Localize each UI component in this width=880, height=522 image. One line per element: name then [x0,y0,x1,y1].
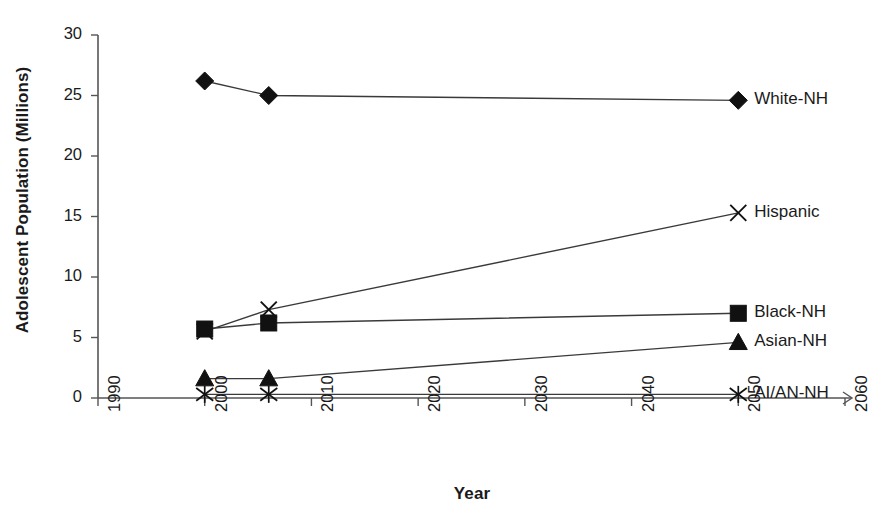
series-line [205,81,739,100]
series-black-nh [197,305,747,337]
series-label-asian-nh: Asian-NH [754,331,827,351]
data-point-marker-diamond [729,91,747,109]
series-line [205,213,739,332]
chart-figure: Adolescent Population (Millions) 0510152… [0,0,880,522]
axis-lines [91,35,852,406]
series-ai-an-nh [196,386,747,403]
x-tick-label: 2000 [212,375,231,412]
series-label-ai-an-nh: AI/AN-NH [754,383,829,403]
series-asian-nh [196,333,748,386]
x-tick-label: 1990 [105,375,124,412]
data-point-marker-x [730,205,746,221]
data-point-marker-triangle [196,370,214,386]
x-tick-label: 2060 [852,375,871,412]
data-point-marker-square [261,315,277,331]
data-series-group [196,72,748,403]
series-line [205,313,739,329]
data-point-marker-square [197,321,213,337]
data-point-marker-triangle [729,333,747,349]
data-point-marker-square [730,305,746,321]
x-tick-label: 2040 [639,375,658,412]
x-axis-title: Year [98,484,846,504]
data-point-marker-diamond [196,72,214,90]
series-label-white-nh: White-NH [754,89,828,109]
series-line [205,342,739,378]
x-axis-title-text: Year [454,484,490,503]
series-white-nh [196,72,748,109]
series-label-black-nh: Black-NH [754,302,826,322]
x-tick-label: 2010 [318,375,337,412]
x-tick-label: 2020 [425,375,444,412]
series-label-hispanic: Hispanic [754,202,819,222]
plot-area [0,0,880,522]
data-point-marker-diamond [260,87,278,105]
x-tick-label: 2030 [532,375,551,412]
